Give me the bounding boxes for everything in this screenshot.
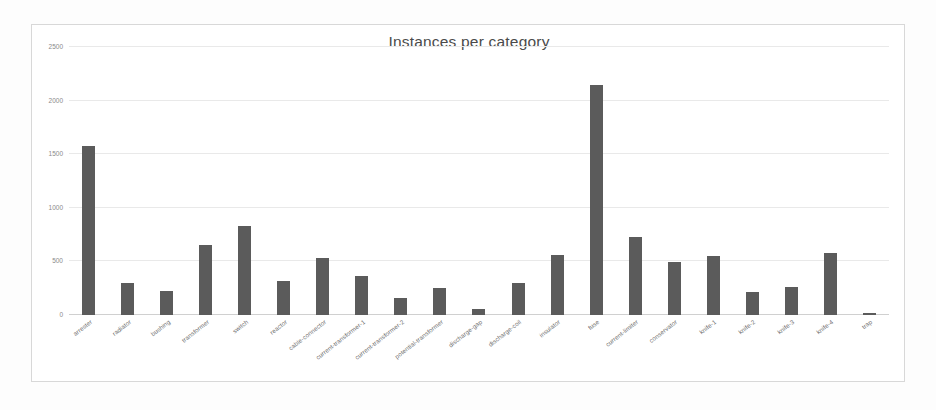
bar-series [69, 47, 889, 315]
y-axis-tick-label: 0 [59, 311, 63, 318]
x-axis-label-switch: switch [231, 318, 249, 334]
bar-switch [238, 226, 251, 315]
bar-knife-1 [707, 256, 720, 315]
x-label-slot: fuse [577, 315, 616, 379]
x-axis-label-knife-3: knife-3 [776, 318, 796, 335]
bar-current-limiter [629, 237, 642, 315]
x-axis-labels: arresterradiatorbushingtransformerswitch… [69, 315, 889, 379]
x-label-slot: discharge-coil [499, 315, 538, 379]
x-label-slot: potential-transformer [420, 315, 459, 379]
x-axis-label-arrester: arrester [71, 318, 93, 337]
x-label-slot: conservator [655, 315, 694, 379]
x-label-slot: bushing [147, 315, 186, 379]
bar-slot [577, 47, 616, 315]
bar-slot [772, 47, 811, 315]
x-axis-label-insulator: insulator [538, 318, 561, 338]
bar-slot [616, 47, 655, 315]
x-label-slot: radiator [108, 315, 147, 379]
bar-transformer [199, 245, 212, 315]
bar-knife-3 [785, 287, 798, 315]
bar-slot [381, 47, 420, 315]
bar-slot [147, 47, 186, 315]
bar-bushing [160, 291, 173, 315]
bar-slot [186, 47, 225, 315]
bar-current-transformer-2 [394, 298, 407, 315]
bar-slot [655, 47, 694, 315]
bar-fuse [590, 85, 603, 315]
x-label-slot: trap [850, 315, 889, 379]
bar-slot [342, 47, 381, 315]
bar-slot [69, 47, 108, 315]
bar-current-transformer-1 [355, 276, 368, 315]
bar-radiator [121, 283, 134, 315]
x-axis-label-fuse: fuse [587, 318, 601, 331]
bar-knife-2 [746, 292, 759, 315]
x-axis-label-knife-4: knife-4 [815, 318, 835, 335]
bar-cable-connector [316, 258, 329, 315]
x-axis-label-knife-2: knife-2 [737, 318, 757, 335]
y-axis-tick-label: 2500 [49, 43, 63, 50]
x-axis-label-reactor: reactor [268, 318, 288, 336]
bar-insulator [551, 255, 564, 315]
bar-slot [420, 47, 459, 315]
bar-knife-4 [824, 253, 837, 315]
chart-frame: Instances per category 25002000150010005… [31, 24, 905, 382]
bar-discharge-coil [512, 283, 525, 315]
bar-slot [264, 47, 303, 315]
plot-area: 25002000150010005000 [69, 47, 889, 315]
x-axis-label-knife-1: knife-1 [698, 318, 718, 335]
bar-arrester [82, 146, 95, 315]
x-label-slot: knife-4 [811, 315, 850, 379]
bar-conservator [668, 262, 681, 315]
y-axis-tick-label: 500 [52, 257, 63, 264]
y-axis-tick-label: 1000 [49, 203, 63, 210]
y-axis-tick-label: 1500 [49, 150, 63, 157]
bar-slot [538, 47, 577, 315]
x-label-slot: discharge-gap [459, 315, 498, 379]
bar-reactor [277, 281, 290, 315]
chart-page: Instances per category 25002000150010005… [0, 0, 936, 410]
x-label-slot: switch [225, 315, 264, 379]
bar-slot [694, 47, 733, 315]
bar-slot [850, 47, 889, 315]
bar-slot [499, 47, 538, 315]
bar-potential-transformer [433, 288, 446, 315]
x-label-slot: knife-3 [772, 315, 811, 379]
x-axis-label-radiator: radiator [110, 318, 131, 337]
x-axis-label-trap: trap [861, 318, 874, 330]
bar-slot [459, 47, 498, 315]
x-label-slot: reactor [264, 315, 303, 379]
bar-slot [303, 47, 342, 315]
x-label-slot: insulator [538, 315, 577, 379]
x-axis-label-bushing: bushing [149, 318, 171, 337]
x-label-slot: current-limiter [616, 315, 655, 379]
bar-slot [733, 47, 772, 315]
bar-slot [225, 47, 264, 315]
bar-slot [811, 47, 850, 315]
x-label-slot: arrester [69, 315, 108, 379]
x-label-slot: knife-2 [733, 315, 772, 379]
x-label-slot: transformer [186, 315, 225, 379]
y-axis-tick-label: 2000 [49, 96, 63, 103]
x-label-slot: knife-1 [694, 315, 733, 379]
bar-slot [108, 47, 147, 315]
